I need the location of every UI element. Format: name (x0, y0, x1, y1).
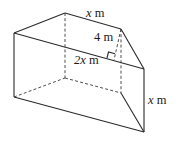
label-top-edge: x m (85, 6, 105, 20)
hidden-edge-bottom-left (14, 78, 65, 97)
label-base: 2x m (74, 53, 99, 67)
edge-bottom-front (14, 97, 144, 132)
edge-bottom-right (121, 93, 144, 132)
edge-apex-right (121, 29, 144, 69)
hidden-edge-bottom-back (65, 78, 121, 93)
hidden-edges (14, 13, 121, 97)
altitude-line (114, 29, 121, 60)
right-angle-marker (107, 52, 115, 58)
edge-top-left (14, 13, 65, 33)
prism-diagram: x m 4 m 2x m x m (0, 0, 178, 148)
label-height: 4 m (94, 30, 113, 44)
label-side: x m (147, 93, 167, 107)
visible-edges (14, 13, 144, 132)
